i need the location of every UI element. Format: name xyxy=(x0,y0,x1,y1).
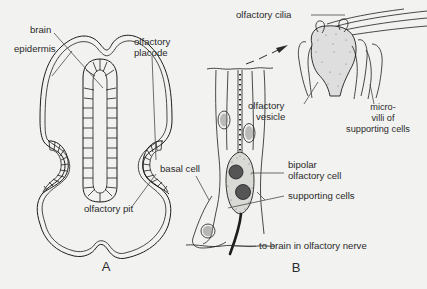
label-bipolar-olfactory-cell-line1: bipolar xyxy=(288,159,318,170)
label-olfactory-cilia: olfactory cilia xyxy=(236,9,292,20)
bipolar-olfactory-cell-body xyxy=(226,152,254,214)
label-olfactory-vesicle-line1: olfactory xyxy=(248,100,284,111)
label-olfactory-placode-line2: placode xyxy=(134,47,168,58)
label-microvilli-line2: villi of xyxy=(372,113,395,123)
label-epidermis: epidermis xyxy=(14,43,56,54)
olfactory-development-figure: brain epidermis olfactory placode olfact… xyxy=(0,0,427,289)
label-olfactory-vesicle-line2: vesicle xyxy=(256,111,285,122)
panel-letter-a: A xyxy=(102,259,111,274)
label-bipolar-olfactory-cell-line2: olfactory cell xyxy=(288,170,341,181)
basal-cell-nucleus xyxy=(201,224,215,238)
label-olfactory-placode-line1: olfactory xyxy=(134,36,170,47)
panel-letter-b: B xyxy=(292,260,301,275)
label-basal-cell: basal cell xyxy=(160,163,200,174)
label-olfactory-nerve: to brain in olfactory nerve xyxy=(259,240,367,251)
label-brain: brain xyxy=(30,24,51,35)
label-microvilli-line3: supporting cells xyxy=(346,124,410,134)
label-olfactory-pit: olfactory pit xyxy=(84,203,133,214)
label-microvilli-line1: micro- xyxy=(370,102,396,112)
label-supporting-cells: supporting cells xyxy=(288,190,355,201)
